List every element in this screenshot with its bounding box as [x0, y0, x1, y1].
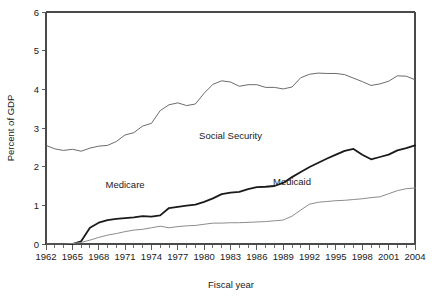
x-tick-label: 1986	[246, 251, 267, 262]
x-tick-label: 1974	[141, 251, 162, 262]
x-axis-title: Fiscal year	[208, 279, 254, 290]
series-label-medicare: Medicare	[106, 179, 145, 190]
x-tick-label: 1968	[88, 251, 109, 262]
y-tick-label: 5	[34, 45, 39, 56]
line-chart: 0123456 19621965196819711974197719801983…	[0, 0, 435, 296]
x-tick-label: 2001	[378, 251, 399, 262]
x-tick-label: 1965	[62, 251, 83, 262]
x-tick-label: 1992	[299, 251, 320, 262]
y-tick-label: 0	[34, 239, 39, 250]
y-tick-label: 4	[34, 84, 39, 95]
x-tick-label: 1971	[115, 251, 136, 262]
y-tick-label: 6	[34, 7, 39, 18]
x-tick-label: 1962	[35, 251, 56, 262]
chart-container: 0123456 19621965196819711974197719801983…	[0, 0, 435, 296]
series-label-social-security: Social Security	[199, 130, 262, 141]
x-tick-label: 1995	[325, 251, 346, 262]
series-label-medicaid: Medicaid	[273, 176, 311, 187]
x-tick-label: 1977	[167, 251, 188, 262]
y-axis-title: Percent of GDP	[5, 95, 16, 162]
x-tick-label: 2004	[404, 251, 425, 262]
y-tick-label: 2	[34, 161, 39, 172]
x-tick-label: 1989	[273, 251, 294, 262]
y-tick-label: 1	[34, 200, 39, 211]
y-tick-label: 3	[34, 123, 39, 134]
x-tick-label: 1983	[220, 251, 241, 262]
x-tick-label: 1980	[194, 251, 215, 262]
x-tick-label: 1998	[352, 251, 373, 262]
